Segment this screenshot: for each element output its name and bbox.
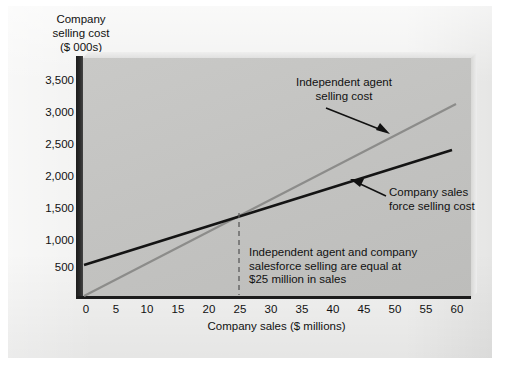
annotation-independent-agent: Independent agent selling cost [282, 76, 406, 103]
annotation-company-salesforce: Company sales force selling cost [389, 186, 501, 213]
figure-container: Company selling cost ($ 000s) 3,500 3,00… [0, 0, 507, 368]
independent-agent-arrow [326, 108, 390, 134]
company-salesforce-arrow [350, 179, 386, 196]
annotation-breakeven: Independent agent and company salesforce… [249, 246, 459, 287]
chart-overlay [0, 0, 507, 368]
